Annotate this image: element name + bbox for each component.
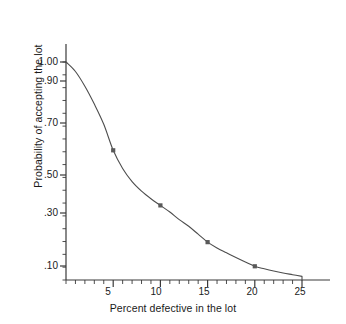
tick-marks	[60, 62, 302, 287]
plot-area	[0, 0, 346, 324]
x-tick-label-20: 20	[240, 286, 264, 297]
oc-curve-line	[66, 62, 302, 280]
chart-figure: Probability of accepting the lot Percent…	[0, 0, 346, 324]
axes	[66, 44, 330, 280]
y-tick-label-0-50: .50	[10, 169, 58, 180]
x-tick-label-10: 10	[144, 286, 168, 297]
data-point-marker-5	[111, 148, 115, 152]
y-tick-label-0-90: .90	[10, 75, 58, 86]
y-tick-label-0-10: .10	[10, 260, 58, 271]
data-point-markers	[111, 148, 257, 268]
y-axis-label: Probability of accepting the lot	[32, 16, 44, 216]
x-axis-label: Percent defective in the lot	[0, 302, 346, 314]
data-point-marker-10	[158, 203, 162, 207]
x-tick-label-15: 15	[192, 286, 216, 297]
x-tick-label-25: 25	[288, 286, 312, 297]
data-point-marker-20	[253, 264, 257, 268]
y-tick-label-0-70: .70	[10, 117, 58, 128]
y-tick-label-1-00: 1.00	[10, 56, 58, 67]
y-tick-label-0-30: .30	[10, 207, 58, 218]
x-tick-label-5: 5	[96, 286, 120, 297]
data-point-marker-15	[206, 240, 210, 244]
